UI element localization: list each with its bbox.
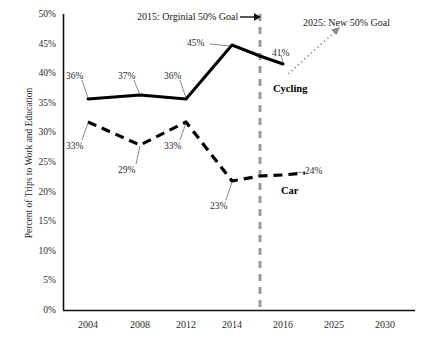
y-tick-label: 30% [22, 128, 56, 138]
data-label-car-2004: 33% [66, 142, 83, 152]
series-label-cycling: Cycling [273, 84, 307, 95]
y-tick-label: 35% [22, 99, 56, 109]
x-tick-label: 2014 [205, 320, 259, 330]
data-label-car-2016: 24% [305, 167, 322, 177]
chart-container: Percent of Trips to Work and Education 5… [0, 0, 427, 349]
chart-plot-svg [0, 0, 427, 349]
leader-line-car-2016 [297, 172, 304, 173]
y-tick-label: 0% [22, 306, 56, 316]
x-tick-label: 2025 [307, 320, 361, 330]
y-tick-label: 5% [22, 276, 56, 286]
data-label-car-2014: 23% [210, 202, 227, 212]
leader-line-car-2014 [226, 182, 232, 200]
x-tick-label: 2030 [358, 320, 412, 330]
y-tick-label: 25% [22, 158, 56, 168]
annotation-arrow-2025-shaft [288, 31, 336, 74]
x-tick-label: 2016 [256, 320, 310, 330]
y-tick-label: 50% [22, 10, 56, 20]
annotation-goal-2025: 2025: New 50% Goal [303, 18, 390, 28]
series-label-car: Car [281, 186, 299, 197]
y-tick-label: 15% [22, 217, 56, 227]
leader-line-cycling-2014 [210, 44, 231, 46]
y-tick-label: 40% [22, 69, 56, 79]
data-label-cycling-2008: 37% [118, 72, 135, 82]
y-tick-label: 20% [22, 188, 56, 198]
leader-line-cycling-2004 [82, 80, 88, 98]
data-label-car-2008: 29% [118, 166, 135, 176]
data-label-cycling-2014: 45% [187, 39, 204, 49]
data-label-cycling-2016: 41% [272, 49, 289, 59]
data-label-car-2012: 33% [164, 142, 181, 152]
leader-line-cycling-2008 [134, 80, 140, 95]
leader-line-cycling-2012 [180, 80, 186, 98]
annotation-goal-2015: 2015: Orginial 50% Goal [137, 12, 238, 22]
y-tick-label: 10% [22, 247, 56, 257]
x-tick-label: 2004 [61, 320, 115, 330]
data-label-cycling-2004: 36% [66, 72, 83, 82]
data-label-cycling-2012: 36% [164, 72, 181, 82]
leader-line-car-2012 [180, 123, 186, 140]
annotation-arrow-2025-head [331, 27, 340, 35]
leader-line-car-2008 [136, 146, 140, 164]
y-tick-label: 45% [22, 40, 56, 50]
leader-line-car-2004 [82, 123, 88, 140]
